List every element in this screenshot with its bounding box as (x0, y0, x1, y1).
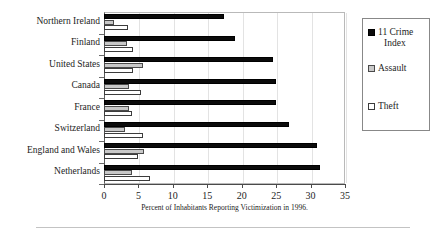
category-label: Netherlands (0, 166, 100, 176)
bar-assault (104, 41, 127, 46)
x-tick (138, 184, 139, 188)
y-tick (99, 34, 104, 35)
bar-assault (104, 170, 132, 175)
empty-white-square-icon (368, 103, 375, 110)
bar-crime (104, 57, 273, 62)
filled-gray-square-icon (368, 65, 375, 72)
category-label: Northern Ireland (0, 16, 100, 26)
category-label: Switzerland (0, 123, 100, 133)
x-tick-label: 15 (192, 190, 222, 202)
y-tick (99, 141, 104, 142)
x-axis-title: Percent of Inhabitants Reporting Victimi… (104, 203, 345, 212)
x-tick (311, 184, 312, 188)
y-tick (99, 163, 104, 164)
x-tick (276, 184, 277, 188)
bar-assault (104, 63, 143, 68)
x-tick-label: 0 (89, 190, 119, 202)
gridline (312, 13, 313, 183)
x-tick-label: 35 (330, 190, 360, 202)
category-label: France (0, 102, 100, 112)
bar-assault (104, 106, 129, 111)
bar-crime (104, 79, 276, 84)
category-label: Canada (0, 80, 100, 90)
x-tick-label: 10 (158, 190, 188, 202)
x-tick-label: 30 (296, 190, 326, 202)
legend-label-theft: Theft (378, 101, 430, 112)
filled-black-square-icon (368, 29, 375, 36)
gridline (277, 13, 278, 183)
bar-assault (104, 149, 144, 154)
legend-label-assault: Assault (378, 63, 430, 74)
y-tick (99, 77, 104, 78)
legend-label-crime-index-line2: Index (378, 38, 436, 49)
bar-crime (104, 100, 276, 105)
chart-legend: 11 Crime Index Assault Theft (362, 18, 430, 131)
legend-label-crime-index: 11 Crime (378, 27, 430, 38)
bar-crime (104, 143, 317, 148)
category-label: England and Wales (0, 145, 100, 155)
gridline (243, 13, 244, 183)
bar-theft (104, 90, 141, 95)
x-tick-label: 20 (227, 190, 257, 202)
bar-crime (104, 36, 235, 41)
x-tick (242, 184, 243, 188)
bar-theft (104, 25, 128, 30)
bottom-divider (36, 227, 410, 228)
x-axis-line (104, 184, 345, 185)
bar-chart-figure: Northern IrelandFinlandUnited StatesCana… (0, 0, 439, 236)
bar-theft (104, 68, 133, 73)
gridline (346, 13, 347, 183)
category-label: Finland (0, 37, 100, 47)
x-tick-label: 25 (261, 190, 291, 202)
category-label: United States (0, 59, 100, 69)
bar-theft (104, 47, 133, 52)
y-tick (99, 98, 104, 99)
bar-assault (104, 84, 129, 89)
y-tick (99, 120, 104, 121)
bar-crime (104, 122, 289, 127)
bar-crime (104, 14, 224, 19)
bar-theft (104, 154, 138, 159)
x-tick-label: 5 (123, 190, 153, 202)
bar-assault (104, 20, 114, 25)
x-tick (345, 184, 346, 188)
bar-crime (104, 165, 320, 170)
x-tick (207, 184, 208, 188)
x-tick (173, 184, 174, 188)
x-tick (104, 184, 105, 188)
bar-assault (104, 127, 125, 132)
y-tick (99, 55, 104, 56)
bar-theft (104, 111, 132, 116)
bar-theft (104, 133, 143, 138)
bar-theft (104, 176, 150, 181)
